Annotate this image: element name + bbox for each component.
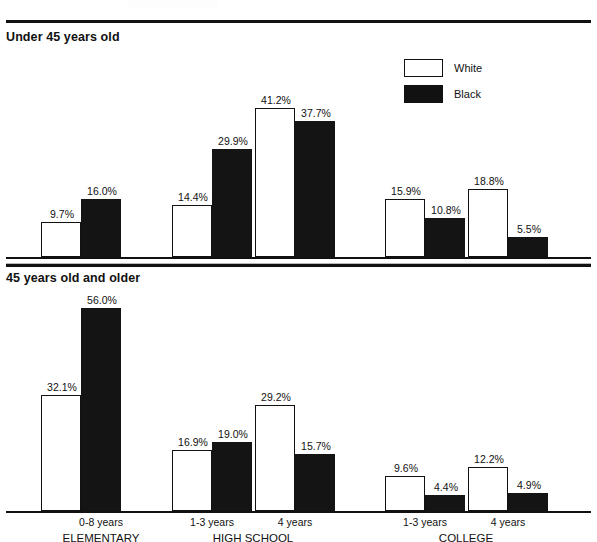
bar-value-label-white-5: 12.2% xyxy=(466,453,512,465)
bar-white-5 xyxy=(468,189,508,257)
x-axis-labels: 0-8 years1-3 years4 years1-3 years4 year… xyxy=(0,516,597,542)
bar-value-label-white-5: 18.8% xyxy=(466,175,512,187)
chart-45-and-older: 32.1%56.0%16.9%19.0%29.2%15.7%9.6%4.4%12… xyxy=(0,290,597,514)
bar-value-label-black-3: 15.7% xyxy=(293,440,339,452)
bar-black-1 xyxy=(81,308,121,511)
chart-under-45: 9.7%16.0%14.4%29.9%41.2%37.7%15.9%10.8%1… xyxy=(0,45,597,260)
scan-artifact xyxy=(128,1,218,8)
divider-top xyxy=(6,20,591,23)
x-group-label-elementary: ELEMENTARY xyxy=(31,532,171,542)
bar-black-3 xyxy=(295,121,335,257)
bar-value-label-black-2: 29.9% xyxy=(210,135,256,147)
bar-value-label-white-2: 14.4% xyxy=(170,191,216,203)
bar-white-2 xyxy=(172,450,212,511)
x-tick-label-5: 4 years xyxy=(463,516,553,528)
bar-black-2 xyxy=(212,149,252,257)
x-tick-label-2: 1-3 years xyxy=(167,516,257,528)
x-axis-line-top xyxy=(6,257,591,259)
bar-white-2 xyxy=(172,205,212,257)
bar-white-3 xyxy=(255,405,295,511)
bar-white-1 xyxy=(41,395,81,511)
x-group-label-college: COLLEGE xyxy=(396,532,536,542)
divider-middle xyxy=(6,264,591,267)
bar-white-4 xyxy=(385,199,425,257)
x-tick-label-1: 0-8 years xyxy=(56,516,146,528)
bar-value-label-black-4: 4.4% xyxy=(423,481,469,493)
bar-value-label-white-3: 41.2% xyxy=(253,94,299,106)
bar-value-label-white-1: 9.7% xyxy=(39,208,85,220)
bar-value-label-white-3: 29.2% xyxy=(253,391,299,403)
bar-value-label-black-5: 5.5% xyxy=(506,223,552,235)
bar-value-label-black-3: 37.7% xyxy=(293,107,339,119)
bar-value-label-white-4: 15.9% xyxy=(383,185,429,197)
x-tick-label-4: 1-3 years xyxy=(380,516,470,528)
bar-black-2 xyxy=(212,442,252,511)
bar-value-label-black-5: 4.9% xyxy=(506,479,552,491)
bar-black-5 xyxy=(508,493,548,511)
section-title-under-45: Under 45 years old xyxy=(6,30,120,44)
bar-value-label-white-4: 9.6% xyxy=(383,462,429,474)
bar-black-5 xyxy=(508,237,548,257)
bar-white-5 xyxy=(468,467,508,511)
bar-value-label-white-1: 32.1% xyxy=(39,381,85,393)
bar-black-4 xyxy=(425,495,465,511)
bar-value-label-black-1: 56.0% xyxy=(79,294,125,306)
bar-white-3 xyxy=(255,108,295,257)
bar-white-4 xyxy=(385,476,425,511)
bar-value-label-black-2: 19.0% xyxy=(210,428,256,440)
bar-black-3 xyxy=(295,454,335,511)
x-tick-label-3: 4 years xyxy=(250,516,340,528)
x-axis-line-bottom xyxy=(6,511,591,513)
x-group-label-high-school: HIGH SCHOOL xyxy=(183,532,323,542)
bar-value-label-black-1: 16.0% xyxy=(79,185,125,197)
bar-white-1 xyxy=(41,222,81,257)
bar-black-4 xyxy=(425,218,465,257)
bar-black-1 xyxy=(81,199,121,257)
section-title-45-and-older: 45 years old and older xyxy=(6,271,140,285)
bar-value-label-black-4: 10.8% xyxy=(423,204,469,216)
